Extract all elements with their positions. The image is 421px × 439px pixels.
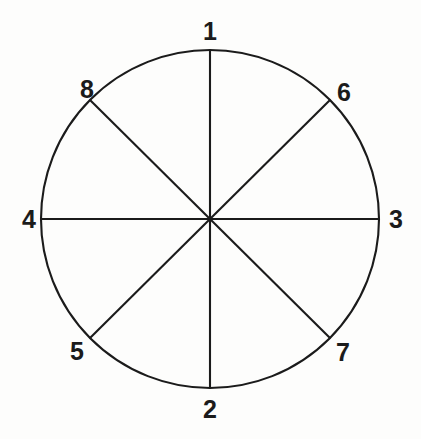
sector-label-7: 7 (328, 338, 358, 366)
sector-label-3: 3 (381, 205, 411, 233)
sector-label-1: 1 (195, 17, 225, 45)
sector-label-4: 4 (14, 205, 44, 233)
sector-label-6: 6 (329, 78, 359, 106)
sector-label-8: 8 (72, 75, 102, 103)
circle-diagram-canvas (0, 0, 421, 439)
sector-label-2: 2 (195, 395, 225, 423)
circle-sector-diagram: 1 6 3 7 2 5 4 8 (0, 0, 421, 439)
sector-label-5: 5 (62, 337, 92, 365)
